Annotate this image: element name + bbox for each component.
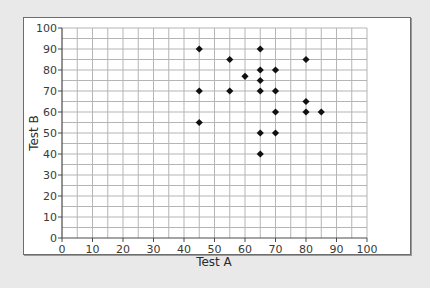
x-tick-label: 10	[86, 243, 100, 256]
y-tick-label: 20	[43, 190, 57, 203]
y-tick-label: 40	[43, 148, 57, 161]
scatter-chart: 0102030405060708090100 01020304050607080…	[0, 0, 430, 288]
y-tick-label: 30	[43, 169, 57, 182]
x-tick-label: 70	[269, 243, 283, 256]
x-tick-label: 90	[330, 243, 344, 256]
diamond-marker-icon	[196, 87, 203, 94]
diamond-marker-icon	[272, 66, 279, 73]
diamond-marker-icon	[257, 129, 264, 136]
diamond-marker-icon	[226, 56, 233, 63]
y-tick-label: 90	[43, 43, 57, 56]
diamond-marker-icon	[257, 77, 264, 84]
diamond-marker-icon	[196, 45, 203, 52]
y-tick-label: 70	[43, 85, 57, 98]
diamond-marker-icon	[272, 129, 279, 136]
diamond-marker-icon	[302, 98, 309, 105]
y-tick-label: 80	[43, 64, 57, 77]
y-tick-label: 50	[43, 127, 57, 140]
grid-lines	[62, 28, 367, 238]
y-tick-label: 60	[43, 106, 57, 119]
diamond-marker-icon	[272, 108, 279, 115]
x-tick-label: 20	[116, 243, 130, 256]
diamond-marker-icon	[196, 119, 203, 126]
diamond-marker-icon	[257, 45, 264, 52]
diamond-marker-icon	[257, 150, 264, 157]
x-tick-label: 80	[299, 243, 313, 256]
x-tick-label: 100	[357, 243, 378, 256]
x-tick-label: 40	[177, 243, 191, 256]
diamond-marker-icon	[226, 87, 233, 94]
x-tick-label: 60	[238, 243, 252, 256]
diamond-marker-icon	[302, 108, 309, 115]
x-axis-title: Test A	[195, 255, 232, 269]
y-tick-label: 100	[36, 22, 57, 35]
diamond-marker-icon	[302, 56, 309, 63]
diamond-marker-icon	[257, 66, 264, 73]
diamond-marker-icon	[272, 87, 279, 94]
x-axis-ticks: 0102030405060708090100	[59, 238, 378, 256]
diamond-marker-icon	[318, 108, 325, 115]
y-axis-title: Test B	[27, 115, 41, 152]
x-tick-label: 30	[147, 243, 161, 256]
x-tick-label: 0	[59, 243, 66, 256]
diamond-marker-icon	[257, 87, 264, 94]
y-tick-label: 0	[50, 232, 57, 245]
diamond-marker-icon	[241, 73, 248, 80]
y-tick-label: 10	[43, 211, 57, 224]
